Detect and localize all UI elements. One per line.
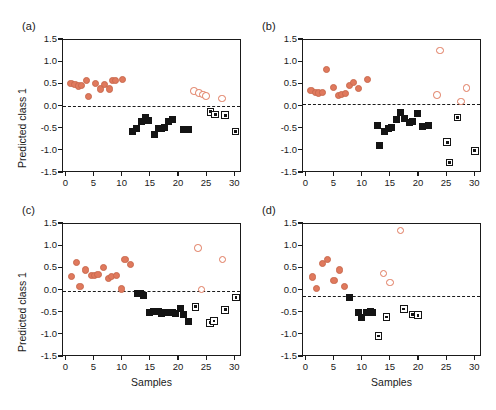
data-point-d-s2-2 [386,279,394,287]
y-tick-label-d-1: 1.0 [266,239,297,250]
y-axis-label-c: Predicted class 1 [16,272,28,352]
data-point-b-s2-2 [457,98,465,106]
data-point-b-s3-0 [443,138,451,146]
x-tick-b-0 [305,171,306,176]
y-tick-label-a-0: 1.5 [26,33,57,44]
x-tick-label-c-6: 30 [220,361,248,372]
data-point-b-s3-3 [471,147,479,155]
data-point-c-s0-10 [113,272,120,279]
data-point-c-s3-0 [192,303,200,311]
x-tick-d-2 [361,355,362,360]
data-point-a-s1-1 [133,125,140,132]
x-tick-label-b-2: 10 [348,177,376,188]
data-point-d-s3-2 [400,305,408,313]
x-tick-label-b-5: 25 [432,177,460,188]
x-tick-b-3 [389,171,390,176]
y-tick-c-4 [58,311,63,312]
panel-label-d: (d) [262,204,276,216]
data-point-a-s1-12 [185,126,192,133]
data-point-d-s3-0 [375,332,383,340]
threshold-line-b [303,104,480,105]
y-tick-label-c-4: -0.5 [26,306,57,317]
x-tick-d-4 [417,355,418,360]
data-point-c-s3-4 [232,294,240,302]
data-point-a-s3-1 [211,111,219,119]
x-tick-label-a-1: 5 [80,177,108,188]
y-tick-c-0 [58,222,63,223]
y-tick-label-a-2: 0.5 [26,77,57,88]
data-point-c-s2-0 [194,244,202,252]
x-tick-b-5 [446,171,447,176]
y-tick-a-2 [58,83,63,84]
data-point-b-s1-9 [409,118,416,125]
y-tick-d-2 [298,267,303,268]
y-tick-label-c-2: 0.5 [26,261,57,272]
y-tick-b-4 [298,127,303,128]
y-tick-c-1 [58,245,63,246]
x-tick-label-d-2: 10 [348,361,376,372]
data-point-c-s1-2 [140,292,147,299]
y-tick-label-a-4: -0.5 [26,122,57,133]
y-tick-d-3 [298,289,303,290]
y-tick-label-b-3: 0.0 [266,100,297,111]
y-tick-d-5 [298,333,303,334]
x-tick-d-3 [389,355,390,360]
y-tick-b-2 [298,83,303,84]
y-tick-a-0 [58,38,63,39]
y-tick-c-5 [58,333,63,334]
y-tick-label-c-6: -1.5 [26,350,57,361]
x-tick-c-3 [149,355,150,360]
x-tick-label-c-2: 10 [108,361,136,372]
plot-area-d [302,223,481,356]
data-point-d-s3-4 [414,311,422,319]
x-tick-c-6 [234,355,235,360]
x-tick-label-d-4: 20 [404,361,432,372]
x-tick-label-a-4: 20 [164,177,192,188]
y-tick-label-d-0: 1.5 [266,217,297,228]
data-point-b-s1-1 [376,142,383,149]
y-tick-label-a-6: -1.5 [26,166,57,177]
x-tick-b-4 [417,171,418,176]
data-point-a-s3-3 [232,128,240,136]
data-point-d-s0-3 [324,256,331,263]
data-point-b-s2-0 [436,47,444,55]
y-tick-a-6 [58,171,63,172]
y-tick-a-5 [58,149,63,150]
data-point-b-s1-4 [388,124,395,131]
data-point-c-s0-13 [127,261,134,268]
y-tick-b-6 [298,171,303,172]
data-point-b-s2-3 [463,84,471,92]
x-tick-a-2 [121,171,122,176]
data-point-a-s0-9 [106,85,113,92]
panel-label-b: (b) [262,20,276,32]
data-point-a-s3-2 [221,111,229,119]
threshold-line-c [63,291,240,292]
x-tick-b-1 [333,171,334,176]
data-point-a-s2-3 [202,92,210,100]
y-tick-b-1 [298,61,303,62]
data-point-d-s0-1 [313,285,320,292]
data-point-d-s1-0 [346,294,353,301]
x-tick-label-d-0: 0 [291,361,319,372]
data-point-c-s1-13 [185,318,192,325]
y-tick-label-b-4: -0.5 [266,122,297,133]
y-tick-d-0 [298,222,303,223]
x-axis-label-c: Samples [62,376,241,388]
x-tick-a-4 [177,171,178,176]
data-point-b-s2-1 [433,91,441,99]
data-point-c-s3-2 [210,317,218,325]
x-tick-label-d-6: 30 [460,361,488,372]
x-tick-d-1 [333,355,334,360]
x-tick-label-a-2: 10 [108,177,136,188]
x-tick-label-b-3: 15 [376,177,404,188]
x-tick-a-3 [149,171,150,176]
data-point-d-s0-4 [330,277,337,284]
x-tick-label-c-5: 25 [192,361,220,372]
x-tick-a-6 [234,171,235,176]
x-tick-label-d-3: 15 [376,361,404,372]
y-tick-d-6 [298,355,303,356]
y-tick-label-c-0: 1.5 [26,217,57,228]
y-tick-a-4 [58,127,63,128]
data-point-c-s0-2 [76,283,83,290]
y-tick-label-c-5: -1.0 [26,328,57,339]
